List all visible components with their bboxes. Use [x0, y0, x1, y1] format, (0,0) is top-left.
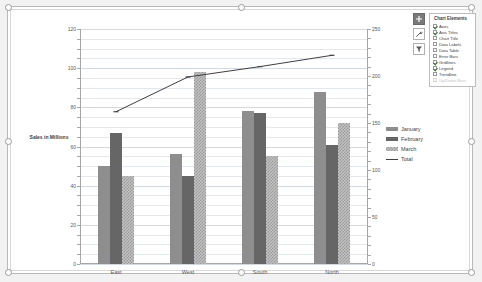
axis-tick [368, 179, 371, 180]
chart-element-label: Data Labels [439, 42, 461, 47]
axis-tick [368, 114, 371, 115]
legend-entry-march[interactable]: March [386, 144, 438, 154]
legend-key-total [386, 159, 398, 160]
checkbox-icon[interactable] [433, 48, 437, 52]
axis-tick [368, 76, 371, 77]
axis-tick [368, 226, 371, 227]
axis-tick [368, 142, 371, 143]
resize-handle-w[interactable] [5, 138, 12, 145]
checkbox-icon[interactable] [433, 72, 437, 76]
left-axis-tick-label: 20 [52, 222, 76, 228]
axis-tick [368, 208, 371, 209]
chart-elements-title: Chart Elements [434, 16, 473, 21]
paintbrush-icon [415, 30, 423, 38]
axis-tick [368, 67, 371, 68]
funnel-icon [415, 45, 423, 53]
left-axis-tick-label: 80 [52, 104, 76, 110]
axis-tick [368, 217, 371, 218]
chart-object[interactable]: 020406080100120 050100150200250 EastWest… [7, 6, 473, 274]
axis-tick [368, 151, 371, 152]
legend-entry-february[interactable]: February [386, 134, 438, 144]
axis-tick [368, 189, 371, 190]
chart-element-label: Data Table [439, 48, 459, 53]
right-axis-tick-label: 50 [372, 214, 396, 220]
chart-element-item-up-down-bars: Up/Down Bars [433, 77, 473, 83]
axis-tick [368, 104, 371, 105]
legend-label: March [401, 146, 416, 152]
chart-elements-button[interactable] [413, 13, 425, 25]
right-axis-tick-label: 200 [372, 73, 396, 79]
checkbox-icon[interactable] [433, 24, 437, 28]
axis-tick [368, 57, 371, 58]
legend-key-mar [386, 147, 398, 151]
axis-tick [368, 264, 371, 265]
category-label-west: West [152, 269, 224, 275]
legend-label: January [401, 126, 421, 132]
axis-title-vertical[interactable]: Sales in Millions [20, 134, 78, 140]
left-axis-tick-label: 40 [52, 183, 76, 189]
axis-tick [368, 161, 371, 162]
resize-handle-ne[interactable] [468, 4, 475, 11]
chart-element-label: Gridlines [439, 60, 456, 65]
chart-element-label: Axes [439, 24, 448, 29]
legend-key-jan [386, 127, 398, 131]
axis-tick [368, 236, 371, 237]
total-line-series[interactable] [80, 29, 368, 264]
total-line[interactable] [116, 55, 332, 111]
category-label-east: East [80, 269, 152, 275]
chart-canvas: 020406080100120 050100150200250 EastWest… [0, 0, 482, 282]
axis-tick [368, 85, 371, 86]
right-axis-tick-label: 100 [372, 167, 396, 173]
resize-handle-s[interactable] [238, 269, 245, 276]
legend-key-feb [386, 137, 398, 141]
left-axis-tick-label: 120 [52, 26, 76, 32]
chart-elements-flyout[interactable]: Chart Elements AxesAxis TitlesChart Titl… [429, 13, 476, 87]
axis-tick [368, 132, 371, 133]
legend-label: February [401, 136, 423, 142]
axis-tick [368, 198, 371, 199]
left-axis-tick-label: 60 [52, 144, 76, 150]
resize-handle-se[interactable] [468, 269, 475, 276]
chart-element-label: Legend [439, 66, 453, 71]
chart-elements-list[interactable]: AxesAxis TitlesChart TitleData LabelsDat… [433, 23, 473, 83]
chart-filters-button[interactable] [413, 43, 425, 55]
axis-tick [368, 29, 371, 30]
resize-handle-e[interactable] [468, 138, 475, 145]
axis-tick [368, 170, 371, 171]
axis-tick [77, 264, 80, 265]
left-axis-tick-label: 100 [52, 65, 76, 71]
axis-tick [368, 245, 371, 246]
resize-handle-nw[interactable] [5, 4, 12, 11]
axis-tick [368, 38, 371, 39]
resize-handle-sw[interactable] [5, 269, 12, 276]
plus-icon [415, 15, 423, 23]
checkbox-icon[interactable] [433, 54, 437, 58]
checkbox-icon [433, 78, 437, 82]
category-label-north: North [296, 269, 368, 275]
chart-element-label: Axis Titles [439, 30, 458, 35]
chart-element-label: Chart Title [439, 36, 458, 41]
left-axis-tick-label: 0 [52, 261, 76, 267]
right-axis-tick-label: 250 [372, 26, 396, 32]
plot-area[interactable] [80, 29, 368, 264]
resize-handle-n[interactable] [238, 4, 245, 11]
gridline [80, 264, 368, 265]
checkbox-icon[interactable] [433, 60, 437, 64]
chart-element-label: Error Bars [439, 54, 458, 59]
checkbox-icon[interactable] [433, 66, 437, 70]
checkbox-icon[interactable] [433, 42, 437, 46]
chart-quick-buttons[interactable] [413, 13, 426, 58]
checkbox-icon[interactable] [433, 36, 437, 40]
axis-tick [368, 48, 371, 49]
axis-tick [368, 123, 371, 124]
legend-label: Total [401, 156, 413, 162]
legend-entry-january[interactable]: January [386, 124, 438, 134]
chart-styles-button[interactable] [413, 28, 425, 40]
chart-element-label: Trendline [439, 72, 456, 77]
axis-tick [368, 255, 371, 256]
checkbox-icon[interactable] [433, 30, 437, 34]
axis-tick [368, 95, 371, 96]
category-label-south: South [224, 269, 296, 275]
legend-entry-total[interactable]: Total [386, 154, 438, 164]
chart-legend[interactable]: JanuaryFebruaryMarchTotal [386, 124, 438, 164]
